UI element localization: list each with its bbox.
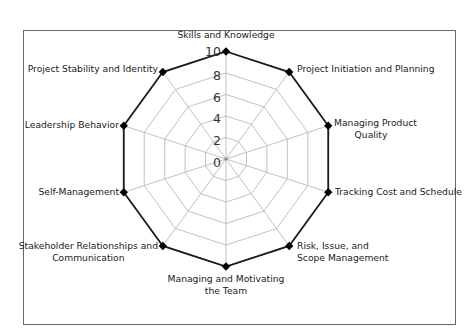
radial-tick-label: 8: [213, 68, 221, 83]
axis-label: Communication: [52, 252, 125, 263]
axis-label: Managing and Motivating: [168, 273, 285, 284]
radial-tick-label: 6: [213, 90, 221, 105]
axis-label: Self-Management: [38, 186, 119, 197]
radar-chart: 0246810 Skills and KnowledgeProject Init…: [0, 0, 476, 334]
axis-label: Managing Product: [334, 117, 417, 128]
radial-tick-label: 0: [213, 155, 221, 170]
center-point: [224, 157, 227, 160]
axis-label: Leadership Behavior: [25, 119, 119, 130]
radar-chart-svg: 0246810 Skills and KnowledgeProject Init…: [0, 0, 476, 334]
axis-label: Risk, Issue, and: [297, 240, 369, 251]
axis-label: Quality: [355, 129, 388, 140]
axis-label: Project Initiation and Planning: [297, 63, 435, 74]
radial-tick-label: 4: [213, 111, 221, 126]
axis-label: Project Stability and Identity: [28, 63, 159, 74]
axis-label: the Team: [205, 285, 247, 296]
axis-label: Skills and Knowledge: [177, 29, 275, 40]
axis-label: Tracking Cost and Schedule: [334, 186, 462, 197]
axis-label: Stakeholder Relationships and: [19, 240, 158, 251]
radial-tick-label: 10: [205, 44, 221, 59]
axis-label: Scope Management: [297, 252, 389, 263]
radial-tick-label: 2: [213, 133, 221, 148]
